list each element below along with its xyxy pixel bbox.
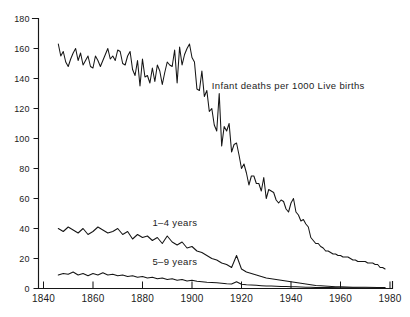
series-annotation-3: 5–9 years	[152, 256, 197, 267]
mortality-line-chart: 020406080100120140160180 184018601880190…	[0, 0, 410, 317]
x-axis-tick-label: 1880	[131, 293, 154, 304]
y-axis-tick-label: 20	[19, 254, 29, 264]
series-line-3	[58, 272, 385, 288]
y-axis-tick-label: 0	[24, 284, 29, 294]
mortality-chart-figure: 020406080100120140160180 184018601880190…	[0, 0, 410, 317]
y-axis-tick-labels: 020406080100120140160180	[14, 14, 29, 294]
series-annotations-group: Infant deaths per 1000 Live births1–4 ye…	[152, 80, 364, 267]
x-axis-tick-label: 1940	[279, 293, 302, 304]
x-axis-tick-label: 1960	[329, 293, 352, 304]
series-line-2	[58, 227, 385, 287]
y-axis-tick-label: 40	[19, 224, 29, 234]
y-axis-tick-label: 140	[14, 74, 29, 84]
x-axis-tick-label: 1980	[378, 293, 401, 304]
y-axis-ticks	[34, 19, 39, 289]
x-axis-tick-labels: 18401860188019001920194019601980	[32, 293, 402, 304]
x-axis-tick-label: 1860	[81, 293, 104, 304]
y-axis-tick-label: 160	[14, 44, 29, 54]
x-axis-tick-label: 1900	[180, 293, 203, 304]
y-axis-tick-label: 120	[14, 104, 29, 114]
y-axis-tick-label: 100	[14, 134, 29, 144]
series-line-1	[58, 44, 385, 269]
x-axis-tick-label: 1920	[230, 293, 253, 304]
series-annotation-1: Infant deaths per 1000 Live births	[212, 80, 365, 91]
y-axis-tick-label: 80	[19, 164, 29, 174]
series-annotation-2: 1–4 years	[152, 217, 197, 228]
x-axis-tick-label: 1840	[32, 293, 55, 304]
y-axis-tick-label: 180	[14, 14, 29, 24]
y-axis-tick-label: 60	[19, 194, 29, 204]
